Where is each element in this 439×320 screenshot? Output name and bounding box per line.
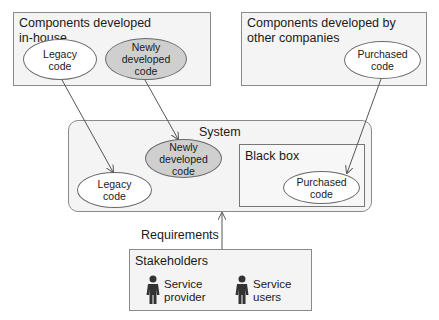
arrow-legacy-to-system <box>62 80 113 172</box>
arrow-newly-to-system <box>145 80 178 139</box>
connector-arrows <box>0 0 439 320</box>
arrow-purchased-to-blackbox <box>347 79 381 173</box>
